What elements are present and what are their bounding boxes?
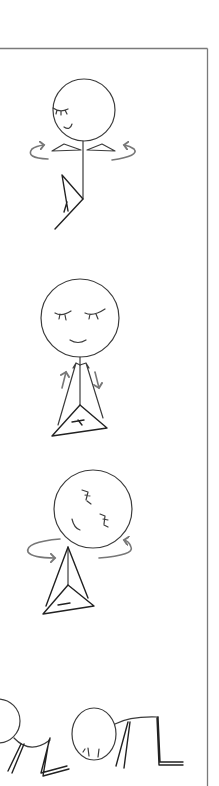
figure-1 [30,79,135,229]
crossed-legs [52,405,107,436]
arms [8,744,24,773]
rotate-arrow-left-icon [28,539,60,558]
arms [116,722,130,768]
head [54,470,132,548]
head [53,79,115,141]
legs [157,717,183,765]
head [72,708,116,760]
figure-3 [28,470,132,614]
face-detail [83,748,99,757]
back [14,738,50,747]
rotate-arrow-left-icon [30,145,48,159]
panel-frame [0,49,208,786]
left-arm [58,363,80,425]
right-arm [80,363,103,418]
figure-4 [0,699,183,776]
back [115,717,158,724]
figure-2 [41,279,119,436]
right-arm [87,144,115,151]
rotate-arrow-right-icon [99,540,131,558]
closed-eye-icon [55,311,71,320]
left-arm [52,144,81,151]
closed-eye-icon [85,309,105,319]
bent-leg [55,175,83,229]
smile-icon [72,519,80,530]
arrow-down-icon [95,372,99,388]
smile-icon [70,340,86,343]
head [41,279,119,357]
smile-icon [64,124,72,128]
head [0,699,20,743]
closed-eye-icon [100,514,108,527]
exercise-illustration [0,0,219,786]
closed-eye-icon [53,108,68,115]
rotate-arrow-right-icon [112,145,135,160]
arrow-up-icon [62,372,66,388]
closed-eye-icon [82,490,91,504]
